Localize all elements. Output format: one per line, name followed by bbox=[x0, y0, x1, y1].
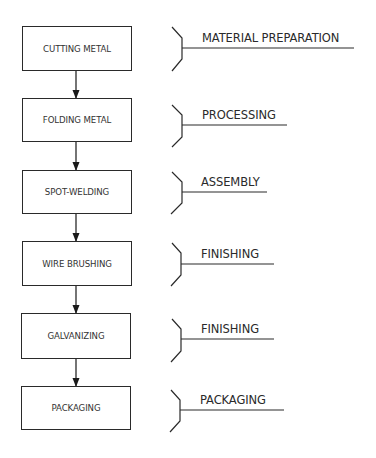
step-box-cutting-metal: CUTTING METAL bbox=[22, 26, 132, 71]
step-box-folding-metal: FOLDING METAL bbox=[22, 98, 132, 142]
stage-label-assembly: ASSEMBLY bbox=[201, 175, 260, 189]
step-box-wire-brushing: WIRE BRUSHING bbox=[22, 241, 132, 286]
bracket-3 bbox=[171, 172, 182, 214]
step-label: SPOT-WELDING bbox=[45, 187, 109, 197]
stage-label-packaging: PACKAGING bbox=[200, 393, 266, 407]
stage-label-material-preparation: MATERIAL PREPARATION bbox=[202, 31, 339, 45]
step-box-packaging: PACKAGING bbox=[21, 386, 131, 430]
stage-label-processing: PROCESSING bbox=[202, 108, 276, 122]
step-box-galvanizing: GALVANIZING bbox=[21, 313, 131, 359]
bracket-1 bbox=[172, 27, 182, 71]
bracket-4 bbox=[171, 243, 181, 286]
step-label: GALVANIZING bbox=[48, 331, 105, 341]
stage-label-finishing-1: FINISHING bbox=[201, 247, 259, 261]
process-flow-diagram: CUTTING METAL FOLDING METAL SPOT-WELDING… bbox=[0, 0, 376, 458]
step-label: PACKAGING bbox=[52, 403, 101, 413]
step-label: WIRE BRUSHING bbox=[42, 259, 112, 269]
bracket-6 bbox=[170, 390, 180, 432]
step-label: CUTTING METAL bbox=[43, 44, 111, 54]
bracket-2 bbox=[172, 105, 182, 147]
bracket-5 bbox=[171, 319, 181, 362]
stage-label-finishing-2: FINISHING bbox=[201, 322, 259, 336]
stage-brackets bbox=[170, 27, 354, 432]
step-label: FOLDING METAL bbox=[43, 115, 111, 125]
step-box-spot-welding: SPOT-WELDING bbox=[22, 170, 132, 214]
